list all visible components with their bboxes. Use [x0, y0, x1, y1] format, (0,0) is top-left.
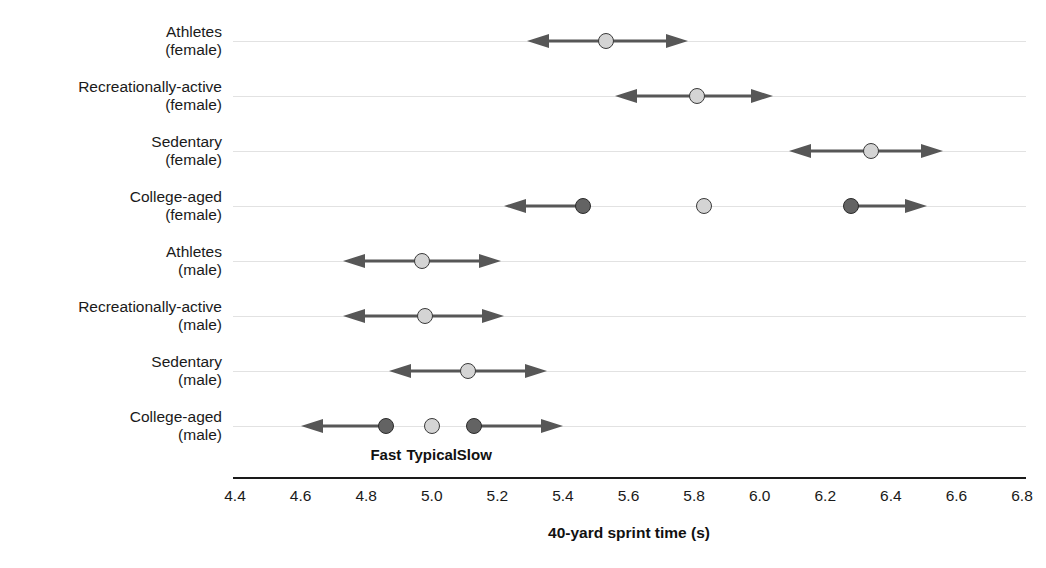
typical-dot-marker — [598, 33, 614, 49]
arrow-right-icon — [541, 416, 563, 436]
category-label-line2: (female) — [0, 206, 222, 224]
x-tick-label: 6.2 — [814, 487, 836, 505]
x-tick-label: 5.0 — [421, 487, 443, 505]
typical-dot-marker — [417, 308, 433, 324]
category-label: Athletes(female) — [0, 23, 222, 59]
category-label-line1: Athletes — [0, 243, 222, 261]
range-line — [851, 205, 904, 208]
category-label-line1: Sedentary — [0, 353, 222, 371]
typical-dot-marker — [424, 418, 440, 434]
typical-dot-marker — [460, 363, 476, 379]
x-tick-label: 4.8 — [355, 487, 377, 505]
category-label-line2: (male) — [0, 426, 222, 444]
category-label: College-aged(male) — [0, 408, 222, 444]
arrow-left-icon — [343, 251, 365, 271]
x-tick-label: 6.0 — [749, 487, 771, 505]
category-label-line1: Sedentary — [0, 133, 222, 151]
gridline — [233, 206, 1026, 207]
gridline — [233, 371, 1026, 372]
category-label-line2: (male) — [0, 316, 222, 334]
x-tick-label: 5.6 — [618, 487, 640, 505]
range-line — [811, 150, 921, 153]
arrow-right-icon — [525, 361, 547, 381]
gridline — [233, 41, 1026, 42]
arrow-left-icon — [615, 86, 637, 106]
arrow-left-icon — [504, 196, 526, 216]
range-line — [365, 315, 482, 318]
x-tick-label: 4.4 — [224, 487, 246, 505]
typical-dot-marker — [689, 88, 705, 104]
arrow-left-icon — [301, 416, 323, 436]
range-line — [323, 425, 386, 428]
gridline — [233, 426, 1026, 427]
arrow-right-icon — [479, 251, 501, 271]
range-line — [365, 260, 478, 263]
extreme-dot-marker — [843, 198, 859, 214]
range-line — [549, 40, 666, 43]
range-line — [411, 370, 524, 373]
gridline — [233, 96, 1026, 97]
x-tick-label: 5.2 — [487, 487, 509, 505]
category-label-line2: (female) — [0, 41, 222, 59]
x-tick-label: 6.8 — [1011, 487, 1033, 505]
gridline — [233, 261, 1026, 262]
legend-label-fast: Fast — [370, 446, 401, 463]
arrow-right-icon — [921, 141, 943, 161]
arrow-left-icon — [343, 306, 365, 326]
arrow-right-icon — [751, 86, 773, 106]
category-label: College-aged(female) — [0, 188, 222, 224]
x-tick-label: 4.6 — [290, 487, 312, 505]
extreme-dot-marker — [378, 418, 394, 434]
typical-dot-marker — [696, 198, 712, 214]
gridline — [233, 151, 1026, 152]
arrow-right-icon — [482, 306, 504, 326]
range-line — [637, 95, 750, 98]
typical-dot-marker — [863, 143, 879, 159]
arrow-right-icon — [905, 196, 927, 216]
category-label: Sedentary(male) — [0, 353, 222, 389]
category-label: Recreationally-active(male) — [0, 298, 222, 334]
category-label-line1: Recreationally-active — [0, 298, 222, 316]
typical-dot-marker — [414, 253, 430, 269]
category-label-line1: Athletes — [0, 23, 222, 41]
arrow-right-icon — [666, 31, 688, 51]
extreme-dot-marker — [575, 198, 591, 214]
category-label-line2: (male) — [0, 261, 222, 279]
category-label-line2: (female) — [0, 96, 222, 114]
x-axis-title: 40-yard sprint time (s) — [548, 524, 710, 542]
sprint-time-dot-chart: Athletes(female)Recreationally-active(fe… — [0, 0, 1046, 568]
x-tick-label: 5.4 — [552, 487, 574, 505]
x-tick-label: 6.4 — [880, 487, 902, 505]
category-label-line1: College-aged — [0, 408, 222, 426]
range-line — [526, 205, 583, 208]
category-label-line2: (female) — [0, 151, 222, 169]
arrow-left-icon — [527, 31, 549, 51]
legend-label-typical: Typical — [406, 446, 457, 463]
category-label-line1: Recreationally-active — [0, 78, 222, 96]
x-axis-line — [233, 477, 1026, 479]
category-label: Athletes(male) — [0, 243, 222, 279]
category-label: Recreationally-active(female) — [0, 78, 222, 114]
extreme-dot-marker — [466, 418, 482, 434]
x-tick-label: 5.8 — [683, 487, 705, 505]
legend-label-slow: Slow — [457, 446, 492, 463]
category-label-line1: College-aged — [0, 188, 222, 206]
x-tick-label: 6.6 — [946, 487, 968, 505]
arrow-left-icon — [389, 361, 411, 381]
range-line — [474, 425, 541, 428]
category-label-line2: (male) — [0, 371, 222, 389]
category-label: Sedentary(female) — [0, 133, 222, 169]
arrow-left-icon — [789, 141, 811, 161]
gridline — [233, 316, 1026, 317]
